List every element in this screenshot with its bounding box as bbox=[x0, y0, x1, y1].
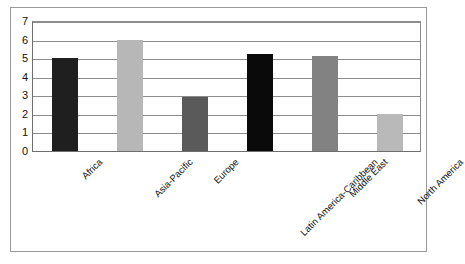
y-axis-tick-label: 5 bbox=[2, 53, 28, 64]
y-axis-tick-label: 0 bbox=[2, 146, 28, 157]
y-axis-tick-label: 4 bbox=[2, 72, 28, 83]
gridline bbox=[33, 41, 420, 42]
gridline bbox=[33, 115, 420, 116]
gridline bbox=[33, 133, 420, 134]
bar bbox=[182, 97, 208, 151]
y-axis-tick-labels: 01234567 bbox=[0, 21, 28, 152]
y-axis-tick-label: 6 bbox=[2, 35, 28, 46]
gridline bbox=[33, 78, 420, 79]
y-axis-tick-label: 2 bbox=[2, 109, 28, 120]
y-axis-tick-label: 3 bbox=[2, 90, 28, 101]
gridline bbox=[33, 22, 420, 23]
bar bbox=[52, 58, 78, 151]
bar bbox=[377, 114, 403, 151]
plot-area bbox=[32, 21, 421, 152]
gridline bbox=[33, 59, 420, 60]
y-axis-tick-label: 7 bbox=[2, 16, 28, 27]
bar bbox=[117, 40, 143, 151]
bar bbox=[247, 54, 273, 151]
y-axis-tick-label: 1 bbox=[2, 127, 28, 138]
bar bbox=[312, 56, 338, 151]
gridline bbox=[33, 96, 420, 97]
